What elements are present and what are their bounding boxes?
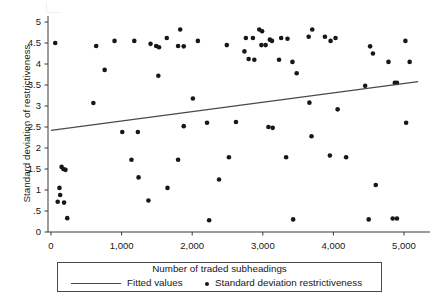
data-point xyxy=(386,60,391,65)
chart-figure: Standard deviation of restrictiveness Nu… xyxy=(0,0,436,307)
data-point xyxy=(285,37,290,42)
data-point xyxy=(57,186,62,191)
scatter-series xyxy=(53,27,412,222)
data-point xyxy=(246,57,251,62)
data-point xyxy=(164,36,169,41)
data-point xyxy=(270,126,275,131)
x-tick-label: 2,000 xyxy=(170,240,214,251)
data-point xyxy=(157,45,162,50)
data-point xyxy=(259,43,264,48)
y-tick-label: 4.5 xyxy=(15,37,41,48)
x-tick-label: 3,000 xyxy=(241,240,285,251)
data-point xyxy=(178,27,183,32)
y-tick-label: 3 xyxy=(15,100,41,111)
data-point xyxy=(62,200,67,205)
data-point xyxy=(176,44,181,49)
y-tick-label: 0 xyxy=(15,226,41,237)
data-point xyxy=(291,217,296,222)
data-point xyxy=(94,44,99,49)
data-point xyxy=(328,153,333,158)
data-point xyxy=(263,43,268,48)
data-point xyxy=(242,49,247,54)
data-point xyxy=(224,43,229,48)
data-point xyxy=(148,42,153,47)
data-point xyxy=(102,68,107,73)
y-tick-label: 1.5 xyxy=(15,163,41,174)
data-point xyxy=(91,101,96,106)
legend-line-swatch xyxy=(71,283,121,284)
data-point xyxy=(373,183,378,188)
data-point xyxy=(146,198,151,203)
data-point xyxy=(65,216,70,221)
data-point xyxy=(136,130,141,135)
data-point xyxy=(279,36,284,41)
y-tick-label: 4 xyxy=(15,58,41,69)
data-point xyxy=(207,218,212,223)
x-tick-label: 0 xyxy=(29,240,73,251)
data-point xyxy=(181,124,186,129)
data-point xyxy=(156,73,161,78)
data-point xyxy=(136,175,141,180)
data-point xyxy=(53,41,58,46)
data-point xyxy=(403,39,408,44)
data-point xyxy=(181,44,186,49)
x-axis-title: Number of traded subheadings xyxy=(57,263,382,274)
data-point xyxy=(284,155,289,160)
data-point xyxy=(244,36,249,41)
data-point xyxy=(58,193,63,198)
data-point xyxy=(307,100,312,105)
data-point xyxy=(251,36,256,41)
data-point xyxy=(328,39,333,44)
y-tick-label: 5 xyxy=(15,16,41,27)
data-point xyxy=(55,199,60,204)
data-point xyxy=(333,36,338,41)
y-tick-label: 1 xyxy=(15,184,41,195)
y-tick-label: 3.5 xyxy=(15,79,41,90)
data-point xyxy=(294,71,299,76)
legend-entries: Fitted values Standard deviation restric… xyxy=(57,277,382,290)
data-point xyxy=(290,60,295,65)
data-point xyxy=(277,58,282,63)
data-point xyxy=(176,157,181,162)
data-point xyxy=(363,84,368,89)
data-point xyxy=(368,44,373,49)
data-point xyxy=(120,130,125,135)
data-point xyxy=(129,157,134,162)
legend-label-fitted-values: Fitted values xyxy=(127,277,183,288)
data-point xyxy=(205,121,210,126)
y-tick-label: .5 xyxy=(15,205,41,216)
data-point xyxy=(310,27,315,32)
legend-label-standard-deviation: Standard deviation restrictiveness xyxy=(215,277,362,288)
data-point xyxy=(371,51,376,56)
data-point xyxy=(196,39,201,44)
data-point xyxy=(165,186,170,191)
data-point xyxy=(191,96,196,101)
data-point xyxy=(404,121,409,126)
x-tick-label: 4,000 xyxy=(311,240,355,251)
data-point xyxy=(63,168,68,173)
data-point xyxy=(252,58,257,63)
scatter-plot-canvas xyxy=(0,0,436,307)
data-point xyxy=(227,155,232,160)
data-point xyxy=(234,120,239,125)
data-point xyxy=(260,29,265,34)
data-point xyxy=(217,177,222,182)
data-point xyxy=(132,39,137,44)
x-tick-label: 5,000 xyxy=(382,240,426,251)
x-tick-label: 1,000 xyxy=(100,240,144,251)
data-point xyxy=(323,34,328,39)
data-point xyxy=(270,39,275,44)
y-tick-label: 2 xyxy=(15,142,41,153)
data-point xyxy=(306,34,311,39)
data-point xyxy=(335,107,340,112)
data-point xyxy=(407,60,412,65)
data-point xyxy=(266,125,271,130)
y-tick-label: 2.5 xyxy=(15,121,41,132)
data-point xyxy=(366,217,371,222)
data-point xyxy=(344,155,349,160)
data-point xyxy=(309,134,314,139)
legend-dot-swatch xyxy=(205,282,209,286)
data-point xyxy=(112,39,117,44)
data-point xyxy=(390,216,395,221)
data-point xyxy=(395,216,400,221)
